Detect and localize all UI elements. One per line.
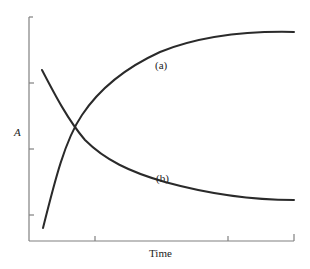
x-axis-label: Time [149, 247, 172, 259]
curve-a-label: (a) [155, 59, 168, 72]
y-axis-label: A [13, 126, 21, 138]
x-axis [29, 234, 294, 241]
kinetics-chart: (a) (b) Time A [0, 0, 310, 269]
curve-b-label: (b) [156, 172, 169, 185]
y-axis [29, 17, 34, 241]
